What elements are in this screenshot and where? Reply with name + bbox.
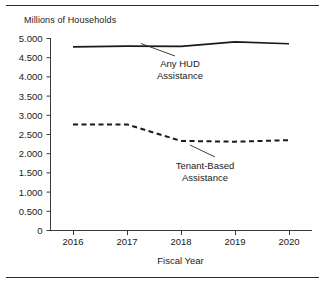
y-tick-3-500: 3.500 [0,90,43,101]
x-tick-2016: 2016 [50,236,96,247]
chart-figure: Millions of Households 00.5001.0001.5002… [0,0,325,284]
series-line-any-hud-assistance [73,42,289,47]
y-tick-4-000: 4.000 [0,71,43,82]
annotation-tenant-based-assistance: Tenant-Based Assistance [140,160,270,184]
y-tick-0: 0 [0,225,43,236]
x-tick-2018: 2018 [158,236,204,247]
y-tick-5-000: 5.000 [0,33,43,44]
y-tick-2-500: 2.500 [0,129,43,140]
y-tick-1-500: 1.500 [0,167,43,178]
annotation-hud-line2: Assistance [120,70,240,82]
x-axis-title-text: Fiscal Year [121,255,203,266]
series-line-tenant-based-assistance [73,124,289,141]
x-tick-2020: 2020 [266,236,312,247]
annotation-tenant-line2: Assistance [140,172,270,184]
x-tick-2019: 2019 [212,236,258,247]
y-tick-1-000: 1.000 [0,186,43,197]
y-tick-4-500: 4.500 [0,52,43,63]
y-tick-3-000: 3.000 [0,109,43,120]
data-series-layer [73,42,289,142]
annotation-tenant-line1: Tenant-Based [140,160,270,172]
x-tick-2017: 2017 [104,236,150,247]
annotation-hud-line1: Any HUD [120,58,240,70]
y-tick-2-000: 2.000 [0,148,43,159]
annotation-any-hud-assistance: Any HUD Assistance [120,58,240,82]
y-axis-ticks [47,39,51,231]
y-tick-0-500: 0.500 [0,205,43,216]
x-axis-title: Fiscal Year [0,255,325,266]
